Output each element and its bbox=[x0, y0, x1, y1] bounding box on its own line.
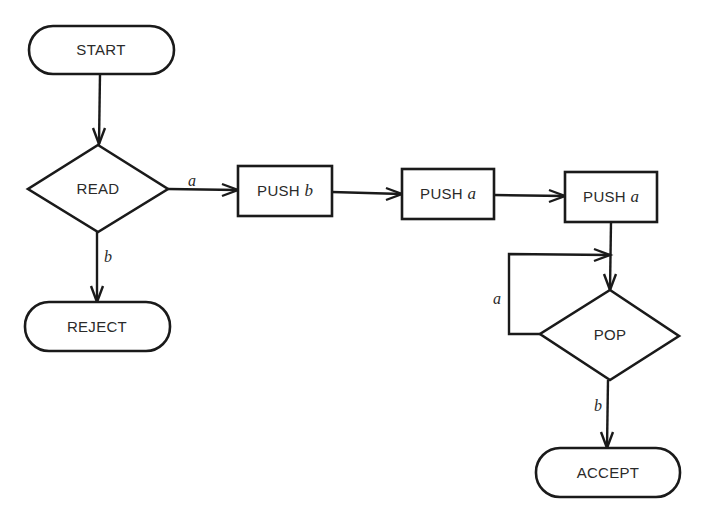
push-b-node: PUSH b bbox=[238, 166, 332, 216]
pop-node: POP bbox=[540, 290, 679, 380]
edge-read-reject: b bbox=[91, 232, 112, 302]
edge-line bbox=[99, 74, 100, 144]
edge-start-read bbox=[93, 74, 105, 144]
edge-read-push-b: a bbox=[168, 172, 238, 196]
accept-node: ACCEPT bbox=[536, 448, 680, 497]
edge-push-b-push-a1 bbox=[332, 188, 402, 200]
edge-label-b: b bbox=[104, 248, 112, 265]
edge-line bbox=[494, 195, 565, 196]
push-a2-node: PUSH a bbox=[565, 172, 657, 222]
push-arg: a bbox=[467, 184, 476, 203]
edge-line bbox=[332, 192, 402, 194]
start-label: START bbox=[76, 41, 125, 58]
reject-node: REJECT bbox=[25, 302, 170, 351]
push-arg: a bbox=[630, 187, 639, 206]
edge-push-a1-push-a2 bbox=[494, 190, 565, 202]
push-op: PUSH bbox=[257, 182, 300, 199]
edge-label-a: a bbox=[493, 290, 501, 307]
start-node: START bbox=[29, 26, 174, 74]
edge-line bbox=[607, 380, 608, 448]
push-arg: b bbox=[304, 181, 313, 200]
read-node: READ bbox=[28, 145, 168, 232]
edge-label-a: a bbox=[188, 172, 196, 189]
push-op: PUSH bbox=[420, 185, 463, 202]
push-a1-node: PUSH a bbox=[402, 169, 494, 219]
reject-label: REJECT bbox=[67, 318, 127, 335]
push-b-label: PUSH b bbox=[257, 181, 313, 200]
edge-pop-accept: b bbox=[594, 380, 613, 448]
edge-label-b: b bbox=[594, 397, 602, 414]
read-label: READ bbox=[77, 180, 120, 197]
flowchart-canvas: START READ a b REJECT PUSH b PUSH a bbox=[0, 0, 713, 521]
accept-label: ACCEPT bbox=[577, 464, 640, 481]
edge-line bbox=[168, 189, 238, 190]
pop-label: POP bbox=[594, 326, 627, 343]
push-a1-label: PUSH a bbox=[420, 184, 476, 203]
push-op: PUSH bbox=[583, 188, 626, 205]
push-a2-label: PUSH a bbox=[583, 187, 639, 206]
